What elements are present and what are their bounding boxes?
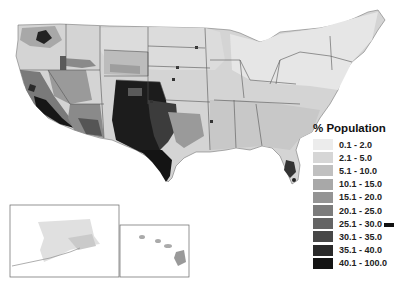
legend-label: 2.1 - 5.0 bbox=[339, 153, 372, 163]
legend-swatch bbox=[313, 179, 333, 190]
legend-item: 5.1 - 10.0 bbox=[313, 164, 401, 177]
legend-item: 40.1 - 100.0 bbox=[313, 257, 401, 270]
legend-swatch bbox=[313, 152, 333, 163]
legend-item: 35.1 - 40.0 bbox=[313, 244, 401, 257]
alaska-inset bbox=[10, 205, 119, 277]
legend-item: 15.1 - 20.0 bbox=[313, 191, 401, 204]
legend-label: 25.1 - 30.0 bbox=[339, 219, 382, 229]
legend-item: 20.1 - 25.0 bbox=[313, 204, 401, 217]
legend-label: 15.1 - 20.0 bbox=[339, 192, 382, 202]
legend-item: 30.1 - 35.0 bbox=[313, 230, 401, 243]
legend-swatch bbox=[313, 218, 333, 229]
legend-swatch bbox=[313, 139, 333, 150]
legend-label: 10.1 - 15.0 bbox=[339, 179, 382, 189]
legend-label: 35.1 - 40.0 bbox=[339, 245, 382, 255]
legend-title: % Population bbox=[313, 122, 401, 134]
legend-swatch bbox=[313, 258, 333, 269]
legend-swatch bbox=[313, 231, 333, 242]
legend-swatch bbox=[313, 205, 333, 216]
legend-item: 0.1 - 2.0 bbox=[313, 138, 401, 151]
hawaii-inset bbox=[120, 225, 189, 277]
legend-swatch bbox=[313, 192, 333, 203]
legend: % Population 0.1 - 2.0 2.1 - 5.0 5.1 - 1… bbox=[313, 122, 401, 270]
legend-label: 30.1 - 35.0 bbox=[339, 232, 382, 242]
legend-label: 0.1 - 2.0 bbox=[339, 140, 372, 150]
marker bbox=[384, 223, 394, 227]
legend-swatch bbox=[313, 245, 333, 256]
legend-swatch bbox=[313, 165, 333, 176]
legend-label: 5.1 - 10.0 bbox=[339, 166, 377, 176]
legend-label: 20.1 - 25.0 bbox=[339, 206, 382, 216]
legend-item: 10.1 - 15.0 bbox=[313, 178, 401, 191]
legend-item: 2.1 - 5.0 bbox=[313, 151, 401, 164]
legend-label: 40.1 - 100.0 bbox=[339, 258, 387, 268]
